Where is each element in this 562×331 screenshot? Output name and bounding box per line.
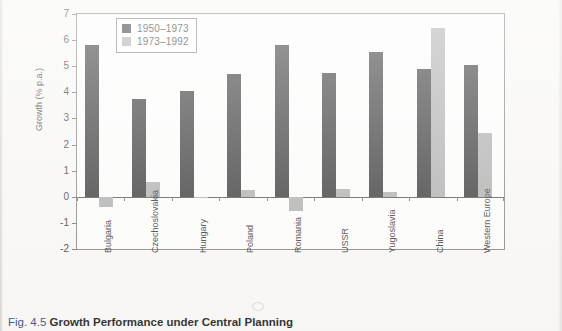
x-axis-category-label: Poland xyxy=(246,225,255,253)
x-axis-category-label: USSR xyxy=(341,228,350,253)
x-axis-tick xyxy=(409,197,410,201)
bar xyxy=(336,189,350,197)
legend-item-series-2: 1973–1992 xyxy=(122,35,189,48)
x-axis-category-label: Romania xyxy=(294,217,303,253)
y-axis-tick xyxy=(72,145,77,146)
y-axis-tick xyxy=(72,66,77,67)
x-axis-tick xyxy=(314,197,315,201)
y-axis-label: 6 xyxy=(63,35,69,45)
y-axis-title: Growth (% p.a.) xyxy=(34,68,44,131)
x-axis-category-label: China xyxy=(436,229,445,253)
bar xyxy=(180,91,194,197)
chart-legend: 1950–1973 1973–1992 xyxy=(116,18,197,53)
bar xyxy=(85,45,99,196)
bar xyxy=(99,197,113,207)
bar xyxy=(241,190,255,197)
x-axis-tick xyxy=(503,197,504,201)
bar xyxy=(431,28,445,196)
y-axis-tick xyxy=(72,171,77,172)
x-axis-tick xyxy=(77,197,78,201)
x-axis-category-label: Western Europe xyxy=(483,188,492,253)
book-page: Growth (% p.a.) -2-101234567 1950–1973 1… xyxy=(0,0,562,331)
x-axis-category-label: Yugoslavia xyxy=(388,209,397,253)
x-axis-tick xyxy=(219,197,220,201)
x-axis-category-label: Bulgaria xyxy=(104,220,113,253)
x-axis-tick xyxy=(267,197,268,201)
bar xyxy=(369,52,383,197)
y-axis-label: -2 xyxy=(60,244,69,254)
x-axis-category-label: Hungary xyxy=(199,219,208,253)
bar xyxy=(383,192,397,197)
y-axis-tick xyxy=(72,14,77,15)
y-axis-tick xyxy=(72,118,77,119)
y-axis-label: 7 xyxy=(63,9,69,19)
bar xyxy=(322,73,336,197)
legend-label: 1973–1992 xyxy=(137,36,189,47)
x-axis-category-label: Czechoslovakia xyxy=(151,190,160,253)
y-axis-label: 5 xyxy=(63,61,69,71)
legend-label: 1950–1973 xyxy=(137,23,189,34)
bar xyxy=(227,74,241,197)
x-axis-tick xyxy=(362,197,363,201)
y-axis-tick xyxy=(72,92,77,93)
caption-number: Fig. 4.5 xyxy=(8,316,46,328)
legend-swatch-icon xyxy=(122,37,131,46)
legend-item-series-1: 1950–1973 xyxy=(122,22,189,35)
bar xyxy=(464,65,478,197)
x-axis-tick xyxy=(172,197,173,201)
y-axis-tick xyxy=(72,249,77,250)
x-axis-tick xyxy=(124,197,125,201)
figure-bar-chart: Growth (% p.a.) -2-101234567 1950–1973 1… xyxy=(0,0,562,305)
y-axis-label: -1 xyxy=(60,218,69,228)
y-axis-tick xyxy=(72,40,77,41)
bar xyxy=(275,45,289,196)
y-axis-label: 0 xyxy=(63,192,69,202)
y-axis-label: 2 xyxy=(63,140,69,150)
bar xyxy=(194,197,208,198)
scan-smudge xyxy=(252,302,264,311)
y-axis-label: 4 xyxy=(63,87,69,97)
x-axis-tick xyxy=(457,197,458,201)
bar xyxy=(417,69,431,197)
bar xyxy=(289,197,303,211)
legend-swatch-icon xyxy=(122,24,131,33)
y-axis-label: 3 xyxy=(63,113,69,123)
caption-title: Growth Performance under Central Plannin… xyxy=(50,316,293,328)
bar xyxy=(132,99,146,197)
y-axis-label: 1 xyxy=(63,166,69,176)
y-axis-tick xyxy=(72,223,77,224)
figure-caption: Fig. 4.5 Growth Performance under Centra… xyxy=(8,316,293,328)
